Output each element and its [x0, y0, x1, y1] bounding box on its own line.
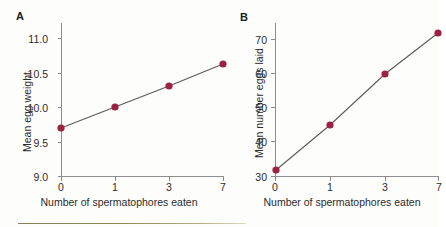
panel-a: A Mean egg weight 11.0 10.5 10.0 9.5 9.0…	[0, 0, 230, 227]
panel-b-data-point	[381, 70, 388, 77]
panel-b-series-line	[276, 33, 438, 170]
panel-b-data-point	[272, 166, 279, 173]
panel-a-series-line	[61, 64, 223, 128]
footer-divider-rule	[18, 223, 246, 224]
panel-a-data-point	[57, 124, 64, 131]
panel-a-data-point	[111, 103, 118, 110]
panel-a-data-point	[165, 82, 172, 89]
panel-b-data-point	[326, 121, 333, 128]
panel-a-plot-area	[0, 0, 230, 200]
panel-b-plot-area	[226, 0, 439, 200]
panel-b: B Mean number eggs laid 70 60 50 40 30 0…	[226, 0, 439, 227]
panel-b-data-point	[434, 29, 441, 36]
